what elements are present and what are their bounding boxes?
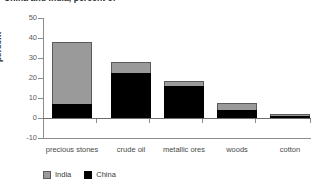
legend-swatch-india-icon: [43, 171, 51, 179]
chart-legend: India China: [43, 170, 116, 179]
legend-label-china: China: [96, 170, 116, 179]
zero-baseline: [43, 118, 311, 119]
bar-segment-china-precious-stones: [52, 104, 92, 118]
x-tick-2: [149, 119, 150, 123]
y-tick-minus10: [38, 138, 43, 139]
y-tick-label-10: 10: [29, 94, 37, 102]
y-tick-10: [38, 98, 43, 99]
bar-cotton: [270, 114, 310, 118]
y-tick-label-minus10: -10: [26, 134, 37, 142]
y-tick-50: [38, 18, 43, 19]
x-tick-5: [310, 119, 311, 123]
stacked-bar-chart: 50 40 30 20 10 0 -10 percent: [0, 0, 318, 195]
y-tick-label-20: 20: [29, 74, 37, 82]
x-tick-1: [96, 119, 97, 123]
x-label-crude-oil: crude oil: [101, 145, 161, 154]
y-tick-label-30: 30: [29, 54, 37, 62]
x-label-metallic-ores: metallic ores: [154, 145, 214, 154]
x-tick-3: [202, 119, 203, 123]
y-axis-title: percent: [0, 32, 3, 62]
bar-segment-india-precious-stones: [52, 42, 92, 104]
y-axis-line: [43, 18, 44, 139]
bar-segment-india-crude-oil: [111, 62, 151, 73]
bar-segment-china-crude-oil: [111, 73, 151, 118]
x-label-precious-stones: precious stones: [42, 145, 102, 154]
legend-item-china[interactable]: China: [84, 170, 116, 179]
x-label-woods: woods: [207, 145, 267, 154]
x-tick-4: [255, 119, 256, 123]
y-tick-0: [38, 118, 43, 119]
x-axis-frame-line: [43, 138, 311, 139]
x-label-cotton: cotton: [260, 145, 318, 154]
y-tick-40: [38, 38, 43, 39]
y-tick-label-50: 50: [29, 14, 37, 22]
y-tick-label-40: 40: [29, 34, 37, 42]
legend-swatch-china-icon: [84, 171, 92, 179]
bar-segment-china-cotton: [270, 116, 310, 118]
bar-crude-oil: [111, 62, 151, 118]
legend-label-india: India: [55, 170, 71, 179]
legend-item-india[interactable]: India: [43, 170, 71, 179]
bar-segment-india-woods: [217, 103, 257, 110]
y-tick-30: [38, 58, 43, 59]
bar-woods: [217, 103, 257, 118]
bar-metallic-ores: [164, 81, 204, 118]
bar-segment-china-woods: [217, 110, 257, 118]
y-tick-20: [38, 78, 43, 79]
bar-precious-stones: [52, 42, 92, 118]
y-tick-label-0: 0: [33, 114, 37, 122]
bar-segment-china-metallic-ores: [164, 86, 204, 118]
